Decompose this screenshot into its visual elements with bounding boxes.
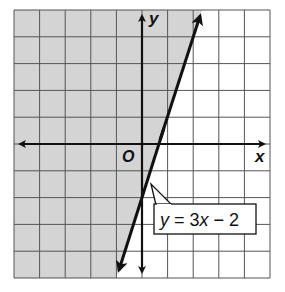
origin-label: O	[122, 148, 135, 165]
y-axis-label: y	[148, 9, 160, 28]
equation-callout: y = 3x − 2	[151, 184, 256, 234]
coordinate-plane: x y O y = 3x − 2	[0, 0, 285, 292]
x-axis-label: x	[254, 147, 266, 166]
equation-label: y = 3x − 2	[158, 210, 239, 230]
